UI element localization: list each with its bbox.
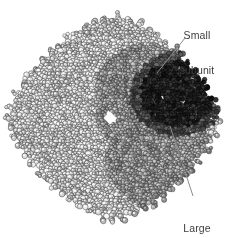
label-small-subunit-line2: subunit bbox=[166, 65, 228, 77]
label-small-subunit-line1: Small bbox=[166, 30, 228, 42]
figure-container: Small subunit Large subunit bbox=[0, 0, 233, 238]
label-small-subunit: Small subunit bbox=[166, 7, 228, 99]
label-large-subunit: Large subunit bbox=[166, 200, 228, 238]
label-large-subunit-line1: Large bbox=[166, 223, 228, 235]
